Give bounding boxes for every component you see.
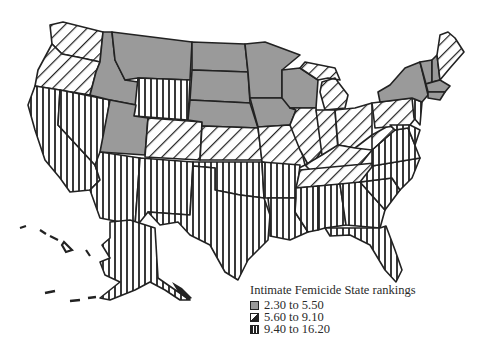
state-kansas bbox=[200, 126, 262, 160]
alaska-islands bbox=[45, 291, 96, 301]
vertical-hatch-swatch-icon bbox=[250, 325, 259, 334]
state-new-york bbox=[378, 62, 428, 102]
state-hawaii bbox=[20, 226, 90, 256]
gray-fill-swatch-icon bbox=[250, 301, 259, 310]
state-north-dakota bbox=[192, 42, 248, 72]
state-montana bbox=[112, 32, 192, 80]
legend-title: Intimate Femicide State rankings bbox=[250, 283, 416, 298]
legend-item-high: 9.40 to 16.20 bbox=[250, 323, 416, 335]
state-south-dakota bbox=[190, 70, 250, 103]
state-colorado bbox=[145, 118, 202, 160]
state-connecticut-ri bbox=[428, 92, 445, 100]
state-wyoming bbox=[134, 78, 190, 120]
map-legend: Intimate Femicide State rankings 2.30 to… bbox=[250, 283, 416, 335]
diagonal-hatch-swatch-icon bbox=[250, 313, 259, 322]
state-pennsylvania bbox=[372, 98, 418, 128]
state-maine bbox=[437, 32, 464, 80]
legend-label: 9.40 to 16.20 bbox=[264, 322, 330, 337]
state-arizona bbox=[90, 152, 140, 225]
state-ohio bbox=[335, 103, 372, 148]
state-florida bbox=[325, 226, 402, 282]
state-arkansas bbox=[262, 162, 300, 198]
